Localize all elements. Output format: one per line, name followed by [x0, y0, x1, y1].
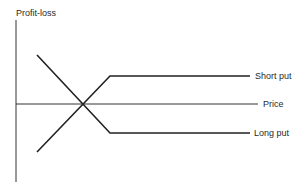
- payoff-chart: Profit-loss Short put Price Long put: [0, 0, 303, 186]
- price-label: Price: [263, 99, 284, 109]
- short-put-label: Short put: [255, 71, 292, 81]
- long-put-label: Long put: [254, 128, 290, 138]
- y-axis-label: Profit-loss: [16, 8, 57, 18]
- long-put-line: [37, 55, 250, 133]
- short-put-line: [37, 76, 250, 152]
